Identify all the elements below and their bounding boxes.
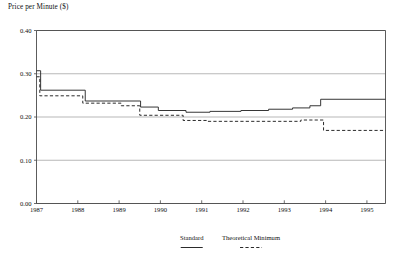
y-tick-label: 0.10 — [20, 157, 32, 164]
series-line-standard — [37, 71, 386, 113]
x-tick-label: 1995 — [360, 206, 374, 213]
x-tick-label: 1989 — [113, 206, 127, 213]
x-tick-label: 1987 — [30, 206, 44, 213]
chart-figure: Price per Minute ($) 0.000.100.200.300.4… — [0, 0, 405, 253]
y-tick-label: 0.20 — [20, 113, 32, 120]
x-tick-label: 1988 — [71, 206, 85, 213]
x-tick-label: 1990 — [154, 206, 168, 213]
x-axis-ticks: 198719881989199019911992199319941995 — [30, 200, 374, 213]
legend-label-standard: Standard — [180, 234, 204, 241]
plot-area: 0.000.100.200.300.40 1987198819891990199… — [0, 0, 405, 253]
y-tick-label: 0.40 — [20, 27, 32, 34]
y-tick-label: 0.30 — [20, 70, 32, 77]
chart-legend: StandardTheoretical Minimum — [0, 232, 405, 253]
x-tick-label: 1994 — [319, 206, 333, 213]
x-tick-label: 1992 — [236, 206, 249, 213]
y-axis-ticks: 0.000.100.200.300.40 — [20, 27, 37, 207]
data-series-group — [37, 71, 386, 131]
gridlines — [37, 31, 386, 204]
series-line-theoretical-minimum — [37, 77, 386, 131]
legend-label-theoretical-minimum: Theoretical Minimum — [222, 234, 281, 241]
x-tick-label: 1991 — [195, 206, 208, 213]
x-tick-label: 1993 — [278, 206, 292, 213]
legend-items: StandardTheoretical Minimum — [180, 234, 281, 248]
